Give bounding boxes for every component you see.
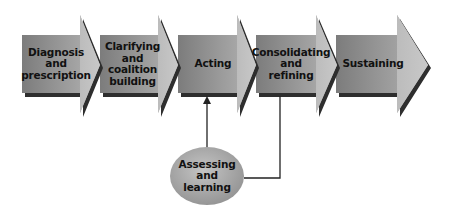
label-line: Clarifying (105, 41, 160, 53)
stage-label-clarifying: Clarifying and coalition building (100, 35, 165, 93)
label-line: coalition (105, 64, 160, 76)
label-line: Acting (195, 58, 232, 70)
arrowhead-up-icon (203, 96, 211, 104)
connector-from-consolidating (244, 96, 280, 178)
stage-label-consolidating: Consolidating and refining (254, 35, 328, 93)
change-process-diagram: Diagnosis and prescription Clarifying an… (0, 0, 451, 209)
stage-label-sustaining: Sustaining (336, 35, 410, 93)
label-line: learning (178, 182, 235, 194)
stage-label-diagnosis: Diagnosis and prescription (22, 35, 90, 93)
label-line: building (105, 76, 160, 88)
feedback-label-assessing: Assessing and learning (170, 148, 244, 204)
label-line: Sustaining (342, 58, 403, 70)
label-line: prescription (21, 70, 91, 82)
stage-label-acting: Acting (178, 35, 248, 93)
label-line: refining (252, 70, 331, 82)
